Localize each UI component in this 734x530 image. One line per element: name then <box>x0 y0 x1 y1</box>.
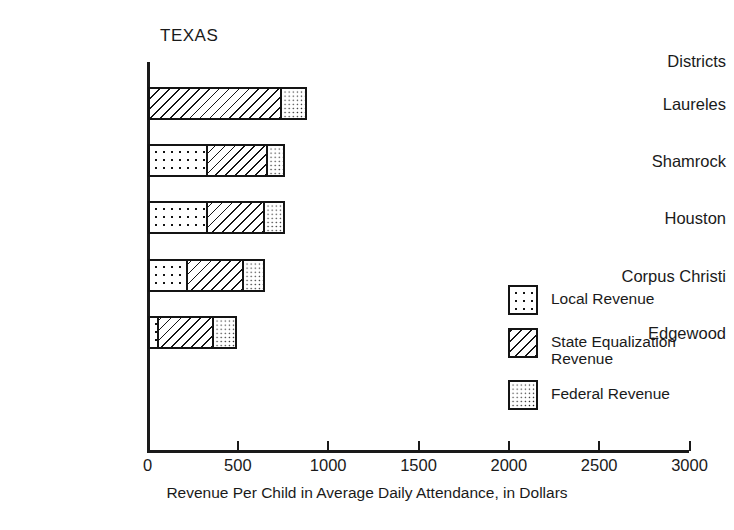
x-tick-label: 1500 <box>400 456 437 475</box>
category-label: Corpus Christi <box>589 267 734 286</box>
legend-swatch-fine-dots <box>508 380 538 410</box>
legend-swatch-diagonal-hatch <box>508 328 538 358</box>
bar-segment-fine-dots <box>242 261 263 290</box>
x-tick <box>327 441 329 451</box>
legend-item: Local Revenue <box>508 285 732 315</box>
bar-segment-fine-dots <box>280 89 306 118</box>
x-tick <box>689 441 691 451</box>
x-tick-label: 500 <box>224 456 252 475</box>
x-tick-label: 3000 <box>671 456 708 475</box>
legend-label: Federal Revenue <box>551 380 670 402</box>
y-axis-line <box>147 62 150 452</box>
bar-segment-fine-dots <box>212 318 234 347</box>
category-label: Shamrock <box>589 152 734 171</box>
bar-segment-coarse-dots <box>150 146 206 175</box>
bar-corpus-christi <box>148 259 265 292</box>
bar-segment-fine-dots <box>266 146 283 175</box>
bar-edgewood <box>148 316 237 349</box>
bar-segment-fine-dots <box>263 203 283 232</box>
x-tick <box>237 441 239 451</box>
x-tick-label: 2000 <box>490 456 527 475</box>
bar-segment-coarse-dots <box>150 261 187 290</box>
x-tick-label: 0 <box>143 456 152 475</box>
x-tick-label: 2500 <box>581 456 618 475</box>
x-tick-label: 1000 <box>310 456 347 475</box>
x-tick <box>147 441 149 451</box>
bar-segment-diagonal-hatch <box>186 261 242 290</box>
legend-item: Federal Revenue <box>508 380 732 410</box>
bar-segment-coarse-dots <box>150 203 206 232</box>
category-label: Houston <box>589 209 734 228</box>
x-tick <box>508 441 510 451</box>
x-tick <box>598 441 600 451</box>
legend-label: State Equalization Revenue <box>551 328 676 367</box>
x-tick <box>418 441 420 451</box>
legend-item: State Equalization Revenue <box>508 328 732 367</box>
legend-swatch-coarse-dots <box>508 285 538 315</box>
bar-segment-diagonal-hatch <box>206 203 263 232</box>
bar-segment-diagonal-hatch <box>150 89 280 118</box>
bar-shamrock <box>148 144 285 177</box>
chart-title: TEXAS <box>160 26 218 46</box>
bar-houston <box>148 201 285 234</box>
bar-segment-diagonal-hatch <box>157 318 212 347</box>
y-axis-title: Districts <box>589 52 734 71</box>
legend-label: Local Revenue <box>551 285 654 307</box>
legend: Local RevenueState Equalization RevenueF… <box>508 285 732 423</box>
bar-chart: TEXAS DistrictsLaurelesShamrockHoustonCo… <box>0 0 734 530</box>
category-label: Laureles <box>589 95 734 114</box>
bar-segment-diagonal-hatch <box>206 146 267 175</box>
x-axis-caption: Revenue Per Child in Average Daily Atten… <box>0 484 734 502</box>
bar-laureles <box>148 87 308 120</box>
bar-segment-coarse-dots <box>150 318 158 347</box>
